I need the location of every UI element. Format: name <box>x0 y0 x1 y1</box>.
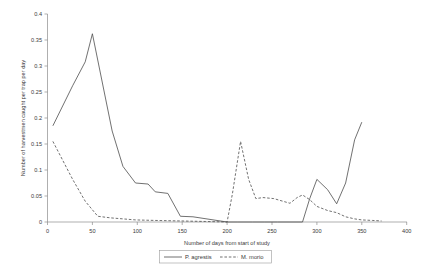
x-tick-label: 150 <box>178 228 187 234</box>
y-tick-label: 0.2 <box>34 115 42 121</box>
legend-label-p-agrestis: P. agrestis <box>185 254 212 260</box>
y-tick-label: 0.35 <box>31 37 42 43</box>
y-tick-marks <box>45 14 48 222</box>
x-axis-title: Number of days from start of study <box>184 240 270 246</box>
y-tick-label: 0.1 <box>34 167 42 173</box>
x-tick-label: 100 <box>133 228 142 234</box>
x-tick-label: 400 <box>402 228 411 234</box>
y-tick-label: 0.3 <box>34 63 42 69</box>
series-line-p-agrestis <box>53 34 362 222</box>
x-tick-label: 350 <box>357 228 366 234</box>
y-tick-label: 0.15 <box>31 141 42 147</box>
y-axis-title: Number of harvestmen caught per trap per… <box>20 60 26 176</box>
y-tick-label: 0.05 <box>31 193 42 199</box>
line-chart: 0 0.05 0.1 0.15 0.2 0.25 0.3 0.35 0.4 0 … <box>0 0 423 272</box>
x-tick-label: 200 <box>222 228 231 234</box>
y-tick-label: 0.25 <box>31 89 42 95</box>
chart-legend: P. agrestis M. morio <box>160 251 272 264</box>
legend-label-m-morio: M. morio <box>241 254 264 260</box>
y-tick-label: 0 <box>39 219 42 225</box>
chart-figure: 0 0.05 0.1 0.15 0.2 0.25 0.3 0.35 0.4 0 … <box>0 0 423 272</box>
y-tick-label: 0.4 <box>34 11 42 17</box>
x-tick-label: 0 <box>46 228 49 234</box>
x-tick-labels: 0 50 100 150 200 250 300 350 400 <box>46 228 411 234</box>
x-tick-label: 300 <box>312 228 321 234</box>
series-line-m-morio <box>53 141 382 222</box>
x-tick-label: 250 <box>267 228 276 234</box>
x-tick-label: 50 <box>89 228 95 234</box>
x-tick-marks <box>48 222 407 225</box>
axes <box>48 14 408 222</box>
y-tick-labels: 0 0.05 0.1 0.15 0.2 0.25 0.3 0.35 0.4 <box>31 11 42 225</box>
